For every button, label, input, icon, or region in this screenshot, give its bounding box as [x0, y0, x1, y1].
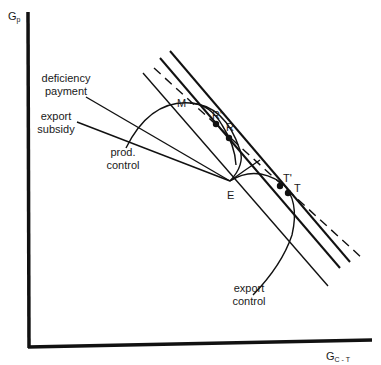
export-control-curve: [230, 173, 294, 295]
price-line-outer: [170, 51, 350, 262]
y-axis-label-main: G: [8, 10, 17, 22]
export-subsidy-label-line2: subsidy: [34, 123, 78, 136]
point-label-T-prime: T': [283, 172, 292, 185]
price-line-tangent-R-T-solid: [160, 58, 340, 268]
export-subsidy-label-line1: export: [34, 110, 78, 123]
export-control-label: export control: [228, 282, 270, 308]
export-subsidy-label: export subsidy: [34, 110, 78, 136]
export-control-label-line1: export: [228, 282, 270, 295]
export-subsidy-line: [77, 122, 230, 181]
point-label-R-prime: R': [212, 109, 222, 122]
deficiency-payment-label: deficiency payment: [36, 72, 96, 98]
deficiency-payment-label-line1: deficiency: [36, 72, 96, 85]
prod-control-label-line1: prod.: [102, 146, 144, 159]
y-axis-label: Gp: [8, 10, 20, 26]
y-axis-label-sub: p: [17, 16, 21, 23]
point-R: [226, 135, 232, 141]
diagram-canvas: [0, 0, 381, 365]
point-label-R: R: [226, 121, 234, 134]
point-label-E: E: [227, 189, 234, 202]
point-T: [285, 190, 291, 196]
prod-control-label: prod. control: [102, 146, 144, 172]
y-axis: [28, 12, 29, 348]
x-axis-label-sub: C - T: [335, 356, 350, 363]
prod-control-label-line2: control: [102, 159, 144, 172]
point-label-T: T: [294, 182, 301, 195]
x-axis-label: GC - T: [326, 350, 350, 365]
x-axis: [28, 340, 372, 347]
x-axis-label-main: G: [326, 350, 335, 362]
point-label-M: M: [177, 97, 186, 110]
deficiency-payment-label-line2: payment: [36, 85, 96, 98]
export-control-label-line2: control: [228, 295, 270, 308]
